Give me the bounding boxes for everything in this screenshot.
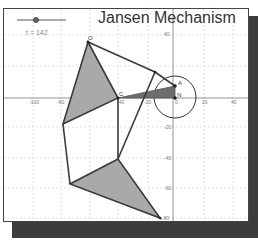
svg-text:0: 0 [175, 99, 178, 105]
svg-text:-80: -80 [57, 99, 64, 105]
svg-text:40: 40 [164, 31, 170, 37]
svg-text:-100: -100 [29, 99, 39, 105]
svg-text:-80: -80 [162, 215, 169, 221]
svg-text:-40: -40 [164, 155, 171, 161]
svg-text:-20: -20 [144, 99, 151, 105]
mechanism-canvas: -100 -80 -60 -40 -20 0 20 40 40 -20 -40 … [0, 0, 258, 243]
slider-value-label: t = 142 [26, 29, 48, 36]
svg-text:-60: -60 [164, 185, 171, 191]
svg-text:40: 40 [231, 99, 237, 105]
foot-triangle [70, 159, 160, 218]
upper-triangle [63, 42, 118, 124]
svg-text:20: 20 [202, 99, 208, 105]
svg-text:-20: -20 [164, 124, 171, 130]
slider-handle[interactable] [34, 18, 39, 23]
svg-text:C: C [119, 91, 124, 97]
svg-text:A: A [178, 80, 182, 86]
svg-text:N: N [177, 92, 181, 98]
svg-text:O: O [88, 35, 93, 41]
page-title: Jansen Mechanism [98, 9, 236, 27]
